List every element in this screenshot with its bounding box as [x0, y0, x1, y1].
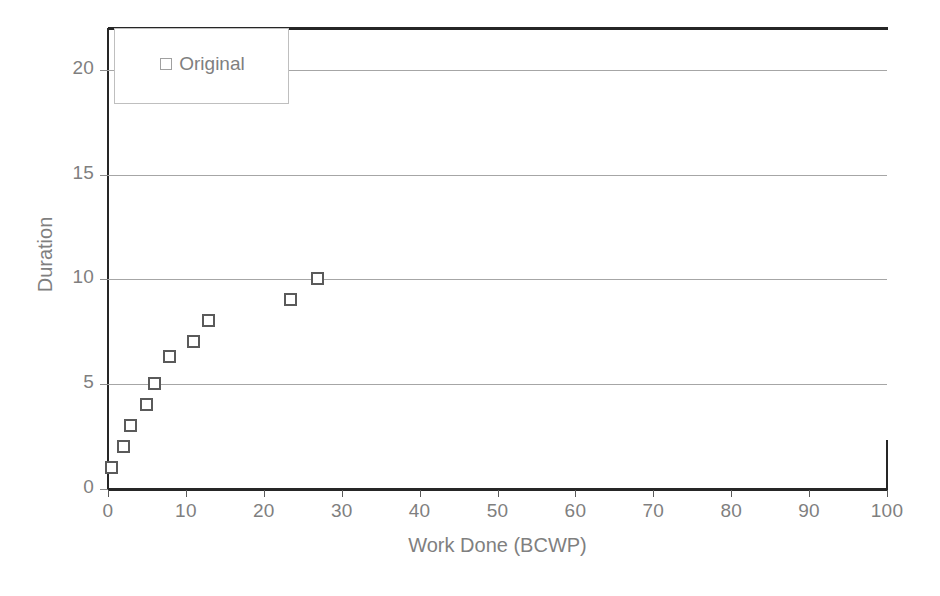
x-axis-tick-label: 70 — [623, 500, 683, 522]
y-axis-tick — [100, 384, 108, 385]
legend-label: Original — [179, 53, 244, 75]
x-axis-tick-label: 20 — [234, 500, 294, 522]
x-axis-tick — [498, 490, 499, 497]
data-point-marker — [202, 314, 215, 327]
data-point-marker — [105, 461, 118, 474]
data-point-marker — [124, 419, 137, 432]
gridline — [108, 384, 887, 385]
x-axis-title: Work Done (BCWP) — [108, 534, 887, 557]
y-axis-title: Duration — [34, 185, 57, 325]
y-axis-tick-label: 20 — [32, 57, 94, 79]
x-axis-tick-label: 100 — [857, 500, 917, 522]
plot-frame-right — [886, 440, 888, 490]
x-axis-tick — [420, 490, 421, 497]
y-axis-tick — [100, 70, 108, 71]
x-axis-tick — [342, 490, 343, 497]
x-axis-tick — [186, 490, 187, 497]
y-axis-tick — [100, 489, 108, 490]
y-axis-tick-label: 15 — [32, 162, 94, 184]
x-axis-tick-label: 80 — [701, 500, 761, 522]
x-axis-tick — [809, 490, 810, 497]
y-axis-tick-label: 0 — [32, 476, 94, 498]
x-axis-tick — [731, 490, 732, 497]
x-axis-tick — [887, 490, 888, 497]
data-point-marker — [163, 350, 176, 363]
data-point-marker — [148, 377, 161, 390]
x-axis-tick-label: 0 — [78, 500, 138, 522]
y-axis-tick — [100, 175, 108, 176]
y-axis-line — [107, 28, 109, 490]
gridline — [108, 279, 887, 280]
data-point-marker — [187, 335, 200, 348]
y-axis-tick — [100, 279, 108, 280]
open-square-icon — [160, 58, 172, 70]
data-point-marker — [284, 293, 297, 306]
scatter-chart: 05101520 0102030405060708090100 Duration… — [0, 0, 940, 596]
x-axis-tick-label: 30 — [312, 500, 372, 522]
x-axis-tick — [653, 490, 654, 497]
legend: Original — [114, 28, 289, 104]
data-point-marker — [117, 440, 130, 453]
legend-entry-original: Original — [115, 53, 290, 75]
data-point-marker — [311, 272, 324, 285]
x-axis-tick — [108, 490, 109, 497]
x-axis-tick — [264, 490, 265, 497]
x-axis-tick — [575, 490, 576, 497]
x-axis-tick-label: 40 — [390, 500, 450, 522]
data-point-marker — [140, 398, 153, 411]
x-axis-tick-label: 50 — [468, 500, 528, 522]
x-axis-tick-label: 60 — [545, 500, 605, 522]
y-axis-tick-label: 5 — [32, 371, 94, 393]
x-axis-tick-label: 90 — [779, 500, 839, 522]
gridline — [108, 175, 887, 176]
x-axis-tick-label: 10 — [156, 500, 216, 522]
